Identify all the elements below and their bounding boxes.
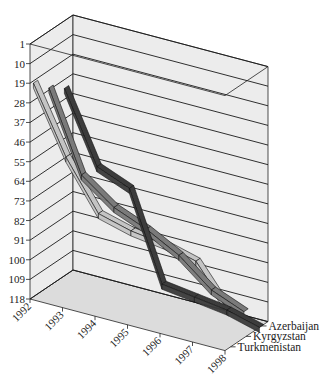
y-tick-label: 64 bbox=[14, 175, 26, 187]
y-tick-label: 19 bbox=[14, 77, 26, 89]
y-tick-label: 109 bbox=[9, 273, 26, 285]
x-tick-label: 1994 bbox=[74, 317, 98, 341]
y-tick-label: 10 bbox=[14, 58, 26, 70]
series-label: Turkmenistan bbox=[238, 341, 302, 353]
x-tick-label: 1995 bbox=[107, 325, 131, 349]
y-tick-label: 55 bbox=[14, 156, 26, 168]
y-tick-label: 46 bbox=[14, 136, 26, 148]
y-tick-label: 1 bbox=[20, 38, 26, 50]
y-tick-label: 100 bbox=[9, 254, 26, 266]
x-tick-label: 1993 bbox=[42, 308, 66, 332]
y-tick-label: 82 bbox=[14, 215, 25, 227]
3d-line-chart: 1101928374655647382911001091181992199319… bbox=[0, 0, 329, 381]
y-tick-label: 28 bbox=[14, 97, 26, 109]
x-tick-label: 1997 bbox=[172, 343, 196, 367]
y-tick-label: 37 bbox=[14, 116, 26, 128]
x-tick-label: 1998 bbox=[204, 351, 228, 375]
y-tick-label: 91 bbox=[14, 234, 25, 246]
y-tick-label: 73 bbox=[14, 195, 26, 207]
x-tick-label: 1996 bbox=[139, 334, 163, 358]
